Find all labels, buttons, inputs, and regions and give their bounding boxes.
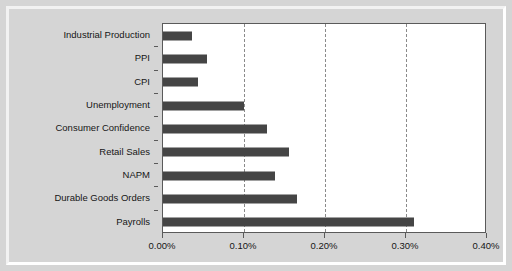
value-tick-label: 0.20% — [311, 240, 338, 251]
bar-row — [163, 164, 485, 187]
category-label: Industrial Production — [63, 23, 150, 46]
bar-row — [163, 211, 485, 234]
category-tick — [154, 70, 158, 71]
category-label: PPI — [135, 46, 150, 69]
value-tick — [486, 233, 487, 238]
category-tick — [154, 186, 158, 187]
category-tick — [154, 116, 158, 117]
category-tick — [154, 46, 158, 47]
category-axis: Industrial ProductionPPICPIUnemploymentC… — [0, 23, 158, 233]
value-axis: 0.00%0.10%0.20%0.30%0.40% — [162, 233, 486, 263]
category-label: Unemployment — [86, 93, 150, 116]
bar — [163, 218, 414, 227]
bar — [163, 171, 275, 180]
bar-row — [163, 117, 485, 140]
value-tick-label: 0.10% — [230, 240, 257, 251]
bar — [163, 148, 289, 157]
bar-row — [163, 187, 485, 210]
value-tick — [405, 233, 406, 238]
bar — [163, 54, 207, 63]
bar-series — [163, 24, 485, 232]
bar-row — [163, 94, 485, 117]
category-label: Durable Goods Orders — [54, 186, 150, 209]
category-label: NAPM — [123, 163, 150, 186]
category-label: CPI — [134, 70, 150, 93]
category-label: Retail Sales — [99, 140, 150, 163]
category-label: Payrolls — [116, 210, 150, 233]
bar-row — [163, 47, 485, 70]
plot-area — [162, 23, 486, 233]
bar — [163, 78, 198, 87]
bar — [163, 124, 267, 133]
value-tick — [162, 233, 163, 238]
category-tick — [154, 140, 158, 141]
value-tick-label: 0.00% — [149, 240, 176, 251]
bar — [163, 31, 192, 40]
category-tick — [154, 93, 158, 94]
category-tick — [154, 210, 158, 211]
bar-row — [163, 71, 485, 94]
category-tick — [154, 163, 158, 164]
bar — [163, 194, 297, 203]
value-tick-label: 0.30% — [392, 240, 419, 251]
category-label: Consumer Confidence — [55, 116, 150, 139]
chart-figure: Industrial ProductionPPICPIUnemploymentC… — [0, 0, 512, 271]
value-tick-label: 0.40% — [473, 240, 500, 251]
bar — [163, 101, 244, 110]
bar-row — [163, 24, 485, 47]
value-tick — [324, 233, 325, 238]
bar-row — [163, 141, 485, 164]
value-tick — [243, 233, 244, 238]
